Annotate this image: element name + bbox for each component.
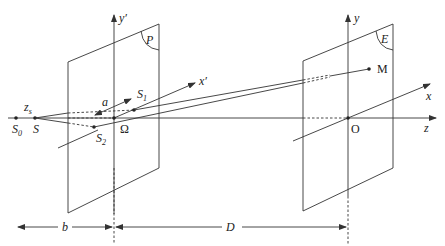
- ray-s-to-s2-hidden: [68, 123, 94, 127]
- d-label: D: [225, 220, 235, 234]
- x-axis: [348, 84, 430, 118]
- ray-to-m-end: [330, 69, 369, 76]
- ray-s-to-s2-front: [35, 118, 68, 123]
- ray-s2-to-m: [94, 83, 303, 127]
- m-label: M: [377, 62, 388, 76]
- b-label: b: [62, 220, 68, 234]
- double-slit-diagram: P E y′ y z x′ x zs S0 S a S1 S2 Ω: [0, 0, 445, 246]
- plane-e-label: E: [380, 32, 389, 46]
- s0-label: S0: [12, 122, 22, 138]
- origin-o-dot: [346, 116, 350, 120]
- a-label: a: [102, 95, 108, 109]
- z-axis-label: z: [423, 121, 429, 135]
- s2-label: S2: [96, 131, 106, 147]
- ray-s-to-s1-front: [35, 113, 68, 118]
- s1-label: S1: [137, 87, 147, 103]
- point-m-dot: [367, 67, 371, 71]
- source-s0-dot: [14, 116, 18, 120]
- omega-label: Ω: [120, 122, 129, 136]
- y-prime-label: y′: [118, 11, 127, 25]
- x-prime-axis-back: [58, 130, 98, 148]
- o-label: O: [351, 122, 360, 136]
- x-axis-back: [293, 118, 348, 141]
- plane-p-label: P: [145, 33, 154, 47]
- y-axis-label: y: [353, 11, 360, 25]
- x-prime-axis: [114, 83, 195, 118]
- x-axis-label: x: [425, 89, 432, 103]
- x-prime-label: x′: [198, 74, 207, 88]
- zs-label: zs: [23, 100, 32, 116]
- s-label: S: [33, 122, 39, 136]
- origin-omega-dot: [112, 116, 116, 120]
